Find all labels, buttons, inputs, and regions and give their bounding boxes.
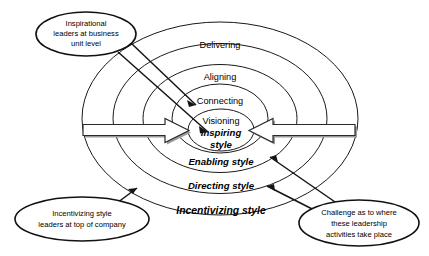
- callout-challenge-line-2: these leadership: [331, 219, 387, 228]
- leader-line-inspirational: [118, 52, 208, 132]
- style-label-incentivizing: Incentivizing style: [176, 205, 266, 216]
- style-label-enabling: Enabling style: [188, 156, 254, 167]
- callout-incentivizing-leaders[interactable]: Incentivizing style leaders at top of co…: [15, 197, 149, 241]
- callout-inspirational-line-2: leaders at business: [53, 29, 119, 38]
- style-label-directing: Directing style: [188, 180, 255, 191]
- leader-line-inspirational-branch: [132, 44, 196, 105]
- callout-challenge-line-1: Challenge as to where: [321, 208, 397, 217]
- callout-inspirational-leaders[interactable]: Inspirational leaders at business unit l…: [36, 12, 136, 56]
- callout-inspirational-line-3: unit level: [71, 39, 101, 48]
- ring-label-aligning: Aligning: [204, 72, 237, 82]
- callout-challenge[interactable]: Challenge as to where these leadership a…: [299, 200, 419, 246]
- callout-inspirational-line-1: Inspirational: [66, 19, 107, 28]
- callout-incentivizing-line-1: Incentivizing style: [52, 209, 112, 218]
- ring-label-connecting: Connecting: [197, 96, 243, 106]
- left-arrow: [83, 119, 189, 143]
- style-label-inspiring-line1: Inspiring: [201, 127, 242, 138]
- diagram-canvas: Delivering Aligning Connecting Visioning…: [0, 0, 429, 256]
- style-label-inspiring-line2: style: [210, 139, 233, 150]
- ring-label-visioning: Visioning: [202, 116, 239, 126]
- callout-incentivizing-line-2: leaders at top of company: [38, 220, 126, 229]
- ring-label-delivering: Delivering: [200, 40, 241, 50]
- callout-challenge-line-3: activities take place: [326, 230, 392, 239]
- right-arrow: [249, 119, 355, 143]
- leadership-ellipse-diagram: Delivering Aligning Connecting Visioning…: [0, 0, 429, 256]
- callout-incentivizing-outline: [15, 197, 149, 241]
